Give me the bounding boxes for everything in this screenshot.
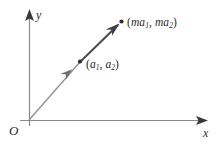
point-ma-dot: [119, 19, 123, 23]
point-a-close-paren: ): [115, 58, 119, 70]
x-axis-label: x: [203, 127, 208, 139]
point-ma-var1: ma: [131, 16, 145, 28]
diagram-canvas: [0, 0, 219, 144]
y-axis-label: y: [36, 9, 41, 21]
vector-a-line: [29, 62, 80, 120]
point-a-label: (a1, a2): [86, 59, 119, 72]
origin-label: O: [9, 124, 18, 137]
point-ma-label: (ma1, ma2): [127, 17, 177, 30]
point-a-dot: [78, 59, 82, 63]
point-ma-var2: ma: [155, 16, 169, 28]
scalar-multiple-vector-diagram: O y x (ma1, ma2) (a1, a2): [0, 0, 219, 144]
point-ma-close-paren: ): [173, 16, 177, 28]
